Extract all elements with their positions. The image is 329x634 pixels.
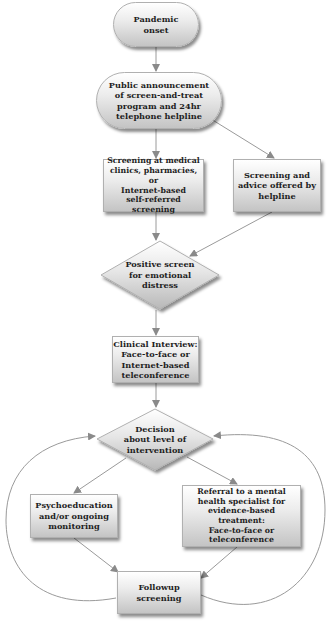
node-pandemic-onset: Pandemic onset — [113, 2, 199, 47]
node-decision: Decision about level of intervention — [96, 408, 214, 471]
node-referral: Referral to a mental health specialist f… — [182, 485, 301, 547]
node-screening-clinics: Screening at medical clinics, pharmacies… — [103, 159, 204, 212]
decision-label: Decision about level of intervention — [96, 408, 214, 471]
edge-announcement-to-helpline — [211, 119, 274, 158]
positive-screen-label: Positive screen for emotional distress — [100, 240, 220, 310]
node-positive-screen: Positive screen for emotional distress — [100, 240, 220, 310]
node-screening-helpline: Screening and advice offered by helpline — [233, 159, 321, 212]
node-public-announcement: Public announcement of screen-and-treat … — [96, 72, 222, 129]
node-followup-screening: Followup screening — [117, 571, 201, 614]
edge-psychoeducation-to-followup — [74, 538, 118, 572]
node-psychoeducation: Psychoeducation and/or ongoing monitorin… — [30, 494, 118, 538]
node-clinical-interview: Clinical Interview: Face-to-face or Inte… — [112, 336, 199, 383]
edge-referral-to-followup — [201, 547, 237, 578]
